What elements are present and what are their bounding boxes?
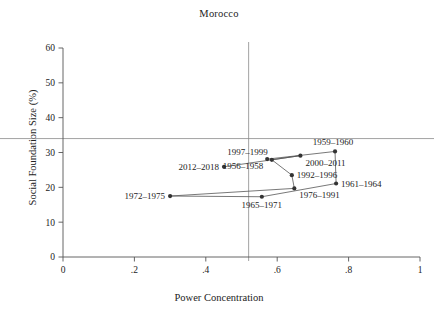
data-point-label: 1997–1999: [227, 147, 268, 157]
data-point-label: 1959–1960: [313, 137, 354, 147]
data-point-marker[interactable]: 1997–1999: [270, 158, 274, 162]
x-tick-label: .4: [202, 265, 209, 275]
y-tick-label: 40: [46, 113, 56, 123]
tick-labels-group: 01020304050600.2.4.6.81: [46, 43, 423, 275]
data-point-marker[interactable]: 1965–1971: [260, 195, 264, 199]
data-point-label: 1965–1971: [242, 200, 283, 210]
data-point-marker[interactable]: 1959–1960: [333, 149, 337, 153]
y-tick-label: 10: [46, 218, 56, 228]
reference-lines-group: [0, 42, 434, 261]
x-tick-label: .6: [274, 265, 281, 275]
x-tick-label: .8: [345, 265, 352, 275]
data-point-label: 1972–1975: [125, 191, 166, 201]
data-point-marker[interactable]: 1956–1958: [265, 157, 269, 161]
point-labels-group: 1956–19581959–19601961–19641965–19711972…: [125, 137, 383, 209]
data-point-label: 1992–1996: [297, 170, 338, 180]
y-tick-label: 0: [50, 252, 55, 262]
y-tick-label: 60: [46, 43, 56, 53]
scatter-plot-svg: 01020304050600.2.4.6.81 1956–19581959–19…: [0, 0, 438, 314]
data-point-label: 1961–1964: [341, 179, 382, 189]
x-tick-label: 1: [418, 265, 423, 275]
data-point-label: 2000–2011: [305, 158, 345, 168]
data-point-marker[interactable]: 1961–1964: [334, 181, 338, 185]
data-point-label: 1956–1958: [223, 161, 264, 171]
data-point-marker[interactable]: 1992–1996: [290, 173, 294, 177]
y-tick-label: 50: [46, 78, 56, 88]
data-point-marker[interactable]: 2000–2011: [298, 154, 302, 158]
data-point-label: 2012–2018: [179, 162, 220, 172]
data-point-label: 1976–1991: [299, 190, 340, 200]
x-tick-label: .2: [131, 265, 138, 275]
y-tick-label: 20: [46, 183, 56, 193]
y-tick-label: 30: [46, 148, 56, 158]
chart-figure: Morocco Social Foundation Size (%) Power…: [0, 0, 438, 314]
x-tick-label: 0: [61, 265, 66, 275]
data-point-marker[interactable]: 1976–1991: [292, 186, 296, 190]
data-point-marker[interactable]: 1972–1975: [168, 194, 172, 198]
plot-area: 01020304050600.2.4.6.81 1956–19581959–19…: [0, 0, 438, 314]
